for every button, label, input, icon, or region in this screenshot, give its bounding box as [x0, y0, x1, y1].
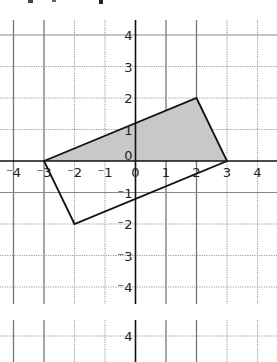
y-tick-label: 1 — [124, 123, 132, 138]
x-tick-label: ⁻4 — [6, 165, 21, 180]
y-tick-label: ⁻2 — [117, 217, 132, 232]
cropped-text-fragment — [28, 0, 33, 3]
y-tick-label: ⁻1 — [117, 186, 132, 201]
coordinate-figure: ⁻4⁻3⁻2⁻10123443210⁻1⁻2⁻3⁻44 — [0, 0, 277, 362]
x-tick-label: 3 — [223, 165, 231, 180]
graph-canvas: ⁻4⁻3⁻2⁻10123443210⁻1⁻2⁻3⁻44 — [0, 0, 277, 362]
y-tick-label: ⁻4 — [117, 280, 132, 295]
y-tick-label: 2 — [124, 91, 132, 106]
x-tick-label: 1 — [162, 165, 170, 180]
x-tick-label: 2 — [192, 165, 200, 180]
y-tick-label: 4 — [124, 329, 132, 344]
y-tick-label: 3 — [124, 60, 132, 75]
x-tick-label: 0 — [131, 165, 139, 180]
y-tick-label: 4 — [124, 28, 132, 43]
y-tick-label: 0 — [124, 148, 132, 163]
y-tick-label: ⁻3 — [117, 249, 132, 264]
x-tick-label: ⁻1 — [97, 165, 112, 180]
cropped-text-fragment — [99, 0, 103, 4]
x-tick-label: ⁻3 — [36, 165, 51, 180]
x-tick-label: 4 — [253, 165, 261, 180]
cropped-text-fragment — [52, 0, 56, 2]
x-tick-label: ⁻2 — [67, 165, 82, 180]
